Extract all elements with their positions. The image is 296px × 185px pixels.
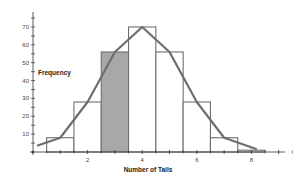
x-tick-label: 6 xyxy=(195,157,199,163)
y-tick-label: 60 xyxy=(22,42,29,48)
y-tick-label: 40 xyxy=(22,78,29,84)
histogram-bar xyxy=(210,138,237,152)
y-tick-label: 10 xyxy=(22,131,29,137)
histogram-bar xyxy=(183,102,210,152)
y-axis-title: Frequency xyxy=(38,69,71,77)
histogram-bar xyxy=(156,52,183,152)
x-tick-label: 4 xyxy=(141,157,145,163)
origin-dot xyxy=(32,151,35,154)
histogram-bar-highlighted xyxy=(101,52,128,152)
y-tick-label: 70 xyxy=(22,24,29,30)
y-tick-label: 50 xyxy=(22,60,29,66)
y-tick-label: 20 xyxy=(22,113,29,119)
histogram-bar xyxy=(47,138,74,152)
histogram-chart: 2468 10203040506070 Frequency Number of … xyxy=(0,0,296,185)
y-tick-label: 30 xyxy=(22,95,29,101)
histogram-bar xyxy=(74,102,101,152)
x-axis-title: Number of Tails xyxy=(124,166,173,173)
x-tick-label: 8 xyxy=(250,157,254,163)
histogram-bars xyxy=(47,27,265,152)
x-tick-label: 2 xyxy=(86,157,90,163)
histogram-bar xyxy=(129,27,156,152)
